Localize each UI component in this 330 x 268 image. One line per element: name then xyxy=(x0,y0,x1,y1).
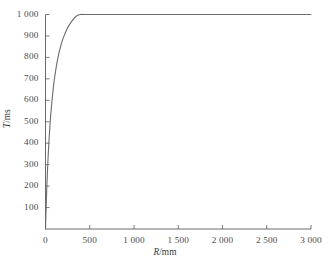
y-tick-label: 1 000 xyxy=(0,10,39,19)
tick-marks-group xyxy=(46,15,312,230)
y-tick-label: 300 xyxy=(0,160,39,169)
y-axis-title-unit: /ms xyxy=(2,109,12,123)
y-tick-label: 900 xyxy=(0,31,39,40)
y-tick-label: 200 xyxy=(0,181,39,190)
y-tick-label: 700 xyxy=(0,74,39,83)
x-tick-label: 0 xyxy=(43,236,48,245)
y-axis-title-symbol: T xyxy=(2,123,12,128)
x-tick-label: 3 000 xyxy=(300,236,322,245)
chart-plot-area xyxy=(0,0,330,268)
y-tick-label: 100 xyxy=(0,203,39,212)
data-curve xyxy=(46,14,312,229)
x-tick-label: 500 xyxy=(83,236,97,245)
y-tick-label: 800 xyxy=(0,53,39,62)
x-axis-title-unit: /mm xyxy=(159,247,176,257)
x-tick-label: 2 000 xyxy=(212,236,234,245)
x-tick-label: 1 500 xyxy=(167,236,189,245)
y-tick-label: 400 xyxy=(0,139,39,148)
x-tick-label: 1 000 xyxy=(123,236,145,245)
y-axis-title: T/ms xyxy=(3,109,12,128)
x-axis-title: R/mm xyxy=(154,248,177,257)
figure-container: 1002003004005006007008009001 000 05001 0… xyxy=(0,0,330,268)
axes-group xyxy=(46,15,312,230)
x-tick-label: 2 500 xyxy=(256,236,278,245)
y-tick-label: 600 xyxy=(0,96,39,105)
